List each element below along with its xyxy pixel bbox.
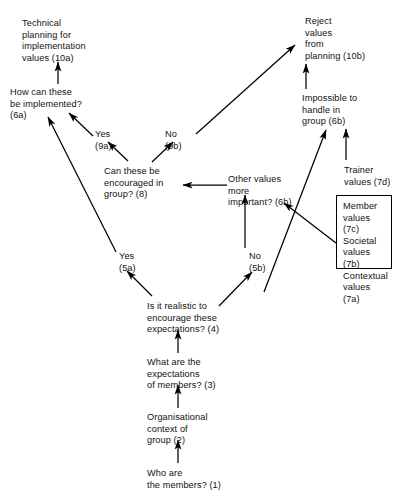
node-expectations-of-members-3[interactable]: What are the expectations of members? (3… bbox=[147, 357, 216, 392]
node-member-values-7c[interactable]: Member values (7c) bbox=[343, 201, 386, 236]
flowchart-diagram: Technical planning for implementation va… bbox=[0, 0, 416, 499]
node-impossible-to-handle-6b[interactable]: Impossible to handle in group (6b) bbox=[302, 93, 357, 128]
edge-9b-to-10b bbox=[196, 45, 295, 134]
edge-values-box-to-6b-other bbox=[284, 203, 336, 243]
values-box[interactable]: Member values (7c) Societal values (7b) … bbox=[336, 195, 392, 269]
node-who-are-the-members-1[interactable]: Who are the members? (1) bbox=[147, 468, 221, 491]
node-yes-5a[interactable]: Yes (5a) bbox=[119, 251, 136, 274]
node-how-implemented-6a[interactable]: How can these be implemented? (6a) bbox=[10, 87, 82, 122]
node-contextual-values-7a[interactable]: Contextual values (7a) bbox=[343, 271, 386, 306]
edge-4-to-5b bbox=[219, 272, 252, 306]
node-is-it-realistic-4[interactable]: Is it realistic to encourage these expec… bbox=[147, 301, 219, 336]
node-can-these-be-encouraged-8[interactable]: Can these be encouraged in group? (8) bbox=[104, 166, 163, 201]
node-organisational-context-2[interactable]: Organisational context of group (2) bbox=[147, 412, 208, 447]
node-reject-values-10b[interactable]: Reject values from planning (10b) bbox=[305, 16, 365, 62]
node-trainer-values-7d[interactable]: Trainer values (7d) bbox=[344, 165, 390, 188]
node-yes-9a[interactable]: Yes (9a) bbox=[95, 129, 112, 152]
node-technical-planning-10a[interactable]: Technical planning for implementation va… bbox=[22, 18, 86, 64]
node-no-9b[interactable]: No (9b) bbox=[165, 129, 182, 152]
node-other-values-more-important-6b[interactable]: Other values more important? (6b) bbox=[228, 174, 292, 209]
node-societal-values-7b[interactable]: Societal values (7b) bbox=[343, 236, 386, 271]
edge-5b-to-6b-impossible bbox=[264, 130, 326, 292]
edge-4-to-5a bbox=[127, 271, 152, 296]
node-no-5b[interactable]: No (5b) bbox=[249, 251, 266, 274]
